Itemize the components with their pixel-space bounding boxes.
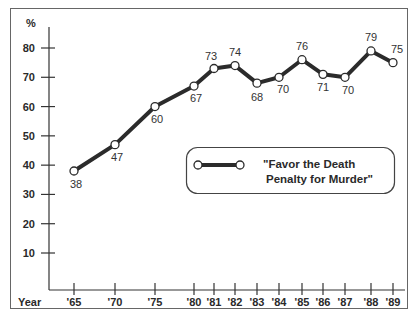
y-tick-label: 80 <box>23 42 35 54</box>
x-tick-label: '89 <box>386 296 401 308</box>
data-point-marker <box>253 79 261 87</box>
y-tick-label: 10 <box>23 247 35 259</box>
data-point-label: 60 <box>151 113 163 125</box>
data-point-marker <box>210 65 218 73</box>
x-tick-label: '65 <box>67 296 82 308</box>
x-tick-label: '86 <box>316 296 331 308</box>
data-point-marker <box>319 70 327 78</box>
x-tick-label: '83 <box>250 296 265 308</box>
data-point-label: 70 <box>277 83 289 95</box>
x-tick-label: '88 <box>364 296 379 308</box>
x-tick-label: '85 <box>295 296 310 308</box>
y-tick-label: 20 <box>23 218 35 230</box>
y-unit-label: % <box>26 17 36 29</box>
legend-marker-left-icon <box>194 161 202 169</box>
data-point-marker <box>190 82 198 90</box>
x-tick-label: '75 <box>148 296 163 308</box>
x-tick-label: '81 <box>207 296 222 308</box>
legend-label-line2: Penalty for Murder" <box>266 173 373 185</box>
data-point-label: 76 <box>296 40 308 52</box>
data-point-label: 75 <box>391 43 403 55</box>
legend-box <box>187 148 395 194</box>
data-point-label: 38 <box>70 178 82 190</box>
data-point-marker <box>389 59 397 67</box>
data-point-label: 70 <box>342 84 354 96</box>
data-point-label: 67 <box>190 92 202 104</box>
data-point-label: 73 <box>205 50 217 62</box>
data-point-marker <box>298 56 306 64</box>
line-chart: % Year 1020304050607080 '65'70'75'80'81'… <box>0 0 417 319</box>
y-tick-label: 30 <box>23 188 35 200</box>
data-point-marker <box>231 62 239 70</box>
data-point-label: 47 <box>111 151 123 163</box>
x-tick-label: '70 <box>108 296 123 308</box>
y-tick-label: 70 <box>23 71 35 83</box>
x-tick-label: '82 <box>228 296 243 308</box>
x-tick-label: '87 <box>338 296 353 308</box>
y-tick-label: 60 <box>23 101 35 113</box>
data-point-marker <box>70 167 78 175</box>
data-point-marker <box>275 73 283 81</box>
data-point-label: 79 <box>365 31 377 43</box>
y-tick-label: 50 <box>23 130 35 142</box>
legend-label-line1: "Favor the Death <box>263 158 355 170</box>
y-tick-label: 40 <box>23 159 35 171</box>
x-tick-label: '80 <box>187 296 202 308</box>
data-point-label: 71 <box>317 81 329 93</box>
legend-marker-right-icon <box>236 161 244 169</box>
data-point-label: 68 <box>251 91 263 103</box>
data-point-label: 74 <box>229 46 241 58</box>
data-point-marker <box>151 103 159 111</box>
data-point-marker <box>341 73 349 81</box>
x-axis-title: Year <box>18 296 42 308</box>
data-point-marker <box>367 47 375 55</box>
data-point-marker <box>111 141 119 149</box>
legend: "Favor the Death Penalty for Murder" <box>187 148 395 194</box>
x-tick-label: '84 <box>272 296 288 308</box>
